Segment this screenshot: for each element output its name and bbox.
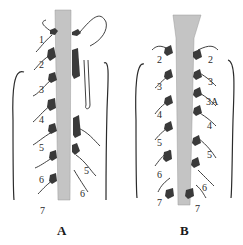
label-a-left-2: 2	[39, 60, 44, 70]
label-a-left-1: 1	[39, 35, 44, 45]
label-b-right-2: 2	[208, 55, 213, 65]
label-a-right-5: 5	[84, 166, 89, 176]
spinal-cord-a	[55, 10, 71, 200]
label-b-left-6: 6	[157, 170, 162, 180]
label-b-right-6: 6	[202, 183, 207, 193]
label-b-left-7: 7	[157, 198, 162, 208]
contour-left-a	[13, 72, 24, 200]
panel-label-a: A	[57, 224, 66, 237]
panel-a-drawing	[13, 10, 108, 200]
label-a-left-4: 4	[39, 115, 44, 125]
label-b-left-3: 3	[157, 82, 162, 92]
figure: 1 2 3 4 5 6 7 5 6 A 2 3 4 5 6 7 2 3 3A 4…	[0, 0, 243, 245]
contour-left-b	[136, 64, 144, 198]
label-b-right-7: 7	[195, 204, 200, 214]
label-b-right-4: 4	[207, 121, 212, 131]
label-a-left-5: 5	[39, 143, 44, 153]
label-a-left-7: 7	[40, 206, 45, 216]
label-b-right-3a: 3A	[206, 97, 218, 107]
label-b-left-5: 5	[157, 138, 162, 148]
contour-right-b	[228, 60, 234, 198]
contour-right-a	[104, 63, 108, 200]
panel-label-b: B	[180, 224, 189, 237]
label-a-right-6: 6	[80, 189, 85, 199]
label-a-left-3: 3	[39, 85, 44, 95]
label-a-left-6: 6	[39, 175, 44, 185]
label-b-right-3: 3	[208, 77, 213, 87]
panel-b-drawing	[136, 15, 234, 205]
label-b-left-4: 4	[157, 110, 162, 120]
label-b-right-5: 5	[207, 150, 212, 160]
label-b-left-2: 2	[157, 55, 162, 65]
